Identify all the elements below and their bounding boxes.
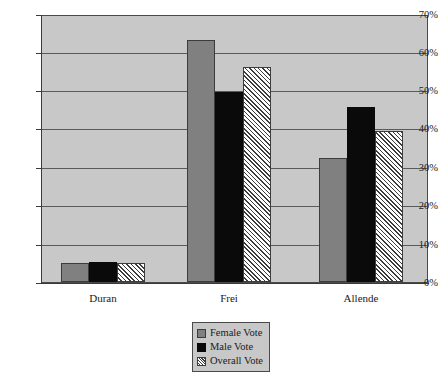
bar-duran-male — [89, 262, 117, 282]
legend-label-male-vote: Male Vote — [210, 341, 253, 353]
y-tick-30 — [36, 168, 42, 169]
female-swatch-icon — [197, 329, 206, 338]
bar-chart: 70% 60% 50% 40% 30% 20% 10% 0% Duran Fre… — [0, 0, 438, 375]
bar-duran-overall — [117, 263, 145, 282]
legend-item-male-vote: Male Vote — [197, 340, 263, 354]
bar-allende-overall — [375, 131, 403, 282]
y-tick-60 — [36, 53, 42, 54]
legend-label-overall-vote: Overall Vote — [210, 355, 263, 367]
y-tick-70 — [36, 15, 42, 16]
bar-frei-male — [215, 92, 243, 282]
y-tick-20 — [36, 206, 42, 207]
bar-frei-female — [187, 40, 215, 282]
legend-item-overall-vote: Overall Vote — [197, 354, 263, 368]
y-axis-label-60: 60% — [404, 48, 438, 58]
y-axis-label-20: 20% — [404, 201, 438, 211]
bar-allende-male — [347, 107, 375, 282]
legend-label-female-vote: Female Vote — [210, 327, 262, 339]
bar-duran-female — [61, 263, 89, 282]
bar-frei-overall — [243, 67, 271, 282]
male-swatch-icon — [197, 343, 206, 352]
y-axis-line — [41, 15, 42, 284]
x-axis-label-frei: Frei — [188, 291, 270, 305]
y-tick-40 — [36, 129, 42, 130]
x-axis-line — [36, 283, 429, 284]
y-tick-50 — [36, 91, 42, 92]
y-axis-label-30: 30% — [404, 163, 438, 173]
y-axis-label-50: 50% — [404, 86, 438, 96]
x-axis-label-duran: Duran — [62, 291, 144, 305]
legend-item-female-vote: Female Vote — [197, 326, 263, 340]
chart-legend: Female Vote Male Vote Overall Vote — [192, 322, 270, 372]
x-axis-label-allende: Allende — [320, 291, 402, 305]
y-axis-label-10: 10% — [404, 240, 438, 250]
gridline-60 — [42, 53, 427, 54]
y-axis-label-40: 40% — [404, 124, 438, 134]
plot-area — [41, 15, 428, 283]
y-tick-10 — [36, 245, 42, 246]
overall-swatch-icon — [197, 357, 206, 366]
bar-allende-female — [319, 158, 347, 282]
y-axis-label-70: 70% — [404, 10, 438, 20]
